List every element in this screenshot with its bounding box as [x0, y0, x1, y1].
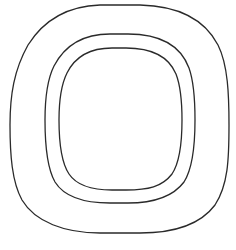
- watermark-text: [0, 240, 236, 250]
- outline-drawing: [0, 0, 236, 250]
- middle-outline: [45, 34, 195, 203]
- outer-outline: [10, 5, 229, 233]
- inner-outline: [59, 48, 182, 190]
